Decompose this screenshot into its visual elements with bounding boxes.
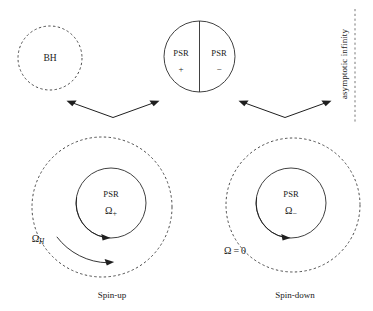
figure-root: BH PSR + PSR − asymptotic infinity PSR Ω…	[0, 0, 373, 311]
spin-up-omega-subscript: +	[112, 209, 117, 218]
spin-down-caption: Spin-down	[275, 291, 315, 300]
pulsar-minus-label: PSR	[211, 49, 226, 58]
asymptotic-infinity-label: asymptotic infinity	[340, 29, 349, 99]
spin-up-inner-title: PSR	[103, 190, 118, 199]
spin-up-caption: Spin-up	[98, 291, 127, 300]
spin-up-outer-arrow-head	[105, 259, 115, 265]
spin-down-inner-arrow-head	[281, 234, 290, 241]
pulsar-minus-sign: −	[216, 65, 221, 74]
black-hole-label: BH	[43, 54, 56, 64]
left-v-arrow	[67, 100, 160, 117]
spin-down-outer-omega: Ω = 0	[224, 246, 246, 256]
spin-down-omega-subscript: −	[292, 209, 297, 218]
pulsar-plus-sign: +	[178, 65, 183, 74]
diagram-canvas	[0, 0, 373, 311]
spin-down-inner-omega: Ω−	[285, 206, 297, 218]
spin-up-outer-circle	[32, 137, 172, 277]
spin-up-outer-omega-subscript: H	[39, 238, 44, 246]
spin-up-outer-omega: ΩH	[32, 234, 45, 246]
spin-up-inner-omega: Ω+	[105, 206, 117, 218]
right-v-arrow	[239, 100, 332, 117]
spin-down-inner-title: PSR	[283, 190, 298, 199]
pulsar-plus-label: PSR	[173, 49, 188, 58]
spin-up-outer-rotation-arrow	[57, 237, 114, 266]
spin-up-inner-arrow-head	[101, 234, 110, 241]
